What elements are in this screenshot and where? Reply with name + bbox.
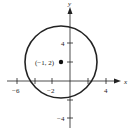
y-axis-label: y (67, 0, 72, 8)
x-axis-label: x (123, 78, 128, 86)
y-axis-arrow-icon (68, 7, 73, 14)
x-tick-label: 4 (104, 87, 108, 95)
y-tick-label: −4 (57, 115, 65, 123)
x-tick-label: −6 (12, 87, 20, 95)
center-point (59, 60, 63, 64)
x-axis-arrow-icon (114, 79, 121, 84)
y-tick-label: 4 (61, 40, 65, 48)
center-label: (−1, 2) (35, 59, 55, 67)
x-tick-label: −2 (47, 87, 55, 95)
coordinate-graph: x y −6 −2 4 4 −4 (−1, 2) (0, 0, 140, 132)
